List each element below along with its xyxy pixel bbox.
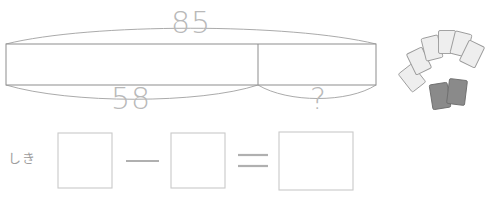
unknown-part-value-label: ? [290, 84, 346, 114]
worksheet-canvas: 85 58 ? しき [0, 0, 485, 197]
equation-boxes [58, 132, 353, 190]
dark-cards-illustration [429, 78, 467, 109]
minuend-box[interactable] [58, 133, 112, 188]
known-part-value-label: 58 [100, 84, 162, 114]
total-value-label: 85 [0, 8, 382, 38]
dark-card [447, 78, 468, 105]
equation-prompt-label: しき [8, 152, 36, 165]
equals-operator-icon [238, 155, 268, 166]
tape-bar [6, 44, 376, 85]
subtrahend-box[interactable] [171, 133, 225, 188]
answer-box[interactable] [279, 132, 353, 190]
